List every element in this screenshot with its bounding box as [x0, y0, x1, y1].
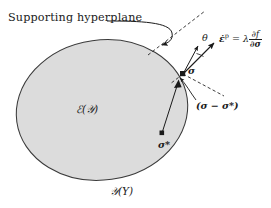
partial-derivative-fraction: ∂f∂σ — [249, 30, 262, 48]
figure-canvas: Supporting hyperplane ℰ(𝒴) 𝒴(Y) σ σ* θ (… — [0, 0, 271, 208]
fraction-numerator: ∂f — [249, 30, 262, 39]
sigma-point-label: σ — [188, 66, 195, 76]
interior-point-marker — [160, 131, 165, 136]
tangent-dashed-ray — [183, 74, 224, 96]
yield-surface-label: 𝒴(Y) — [110, 186, 133, 197]
sigma-star-point-label: σ* — [158, 140, 170, 150]
flow-rule-equation: ε̇p = λ∂f∂σ — [219, 30, 262, 48]
fraction-denominator: ∂σ — [249, 39, 262, 49]
sigma-difference-label: (σ − σ*) — [196, 101, 239, 111]
elastic-domain-region — [7, 29, 197, 192]
equals-sign: = — [232, 33, 240, 44]
theta-angle-label: θ — [202, 33, 208, 43]
tangent-point-marker — [180, 71, 185, 76]
supporting-hyperplane-label: Supporting hyperplane — [8, 12, 142, 23]
elastic-domain-label: ℰ(𝒴) — [76, 104, 98, 115]
plastic-superscript: p — [225, 32, 229, 40]
